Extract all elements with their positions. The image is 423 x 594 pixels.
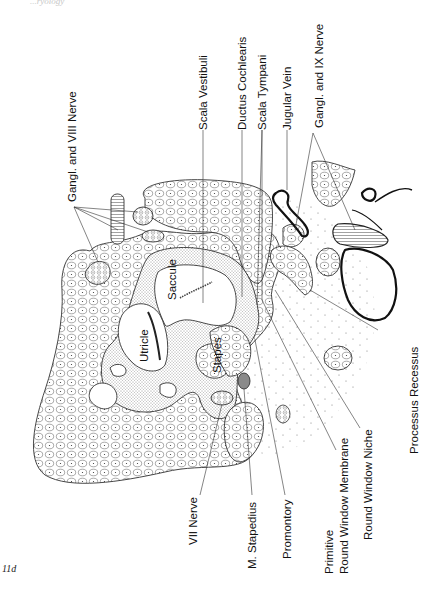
label-round-window-niche: Round Window Niche [362,429,374,540]
label-processus-recessus: Processus Recessus [408,346,420,454]
m-stapedius-section [238,373,250,389]
canal-cavity-small [110,364,126,376]
label-vii-nerve: VII Nerve [187,497,199,545]
right-oval-section [324,346,352,370]
label-primitive: Primitive [323,530,335,574]
vii-nerve-section [211,391,233,405]
inner-ear-cross-section-diagram: Gangl. and VIII Nerve Scala Vestibuli Du… [0,0,423,594]
label-jugular-vein: Jugular Vein [281,67,293,130]
label-ductus-cochlearis: Ductus Cochlearis [236,36,248,130]
small-oval-section [276,405,290,423]
label-saccule: Saccule [166,259,178,300]
cartilage-lobe-lower [224,402,263,462]
label-utricle: Utricle [138,329,150,362]
label-gangl-viii-nerve: Gangl. and VIII Nerve [66,91,78,202]
label-promontory: Promontory [281,499,293,559]
label-gangl-ix-nerve: Gangl. and IX Nerve [313,24,325,128]
gangl-ix-cellular-mass [312,161,355,206]
small-oval-right [316,248,340,276]
label-round-window-membrane: Round Window Membrane [338,438,350,574]
canal-cavity-right [160,383,176,398]
label-scala-tympani: Scala Tympani [256,55,268,130]
label-stapes: Stapes [211,337,223,373]
label-m-stapedius: M. Stapedius [246,502,258,569]
figure-number: 11d [2,563,16,574]
label-scala-vestibuli: Scala Vestibuli [197,55,209,130]
